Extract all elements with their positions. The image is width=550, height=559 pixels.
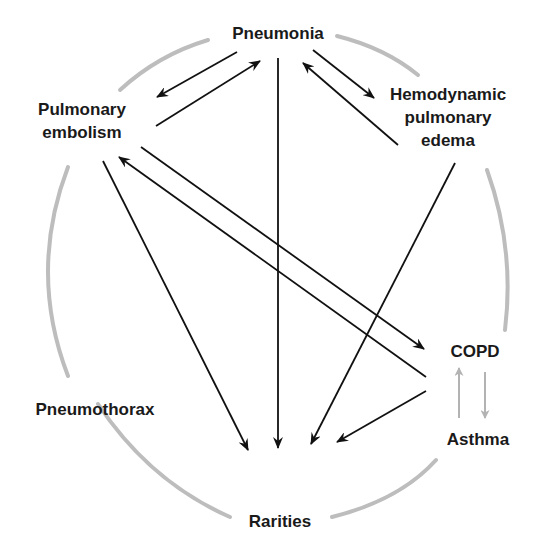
- circle-arc-right: [487, 170, 508, 330]
- node-pneumonia-label: Pneumonia: [212, 22, 344, 45]
- node-hemodynamic-line-3: edema: [380, 129, 516, 152]
- arrow-pneumonia-to-pulmonary-embolism: [157, 52, 237, 97]
- node-asthma: Asthma: [435, 428, 521, 451]
- node-copd-label: COPD: [440, 340, 510, 363]
- arrow-pneumonia-to-hemodynamic-edema: [313, 50, 374, 98]
- node-hemodynamic-line-2: pulmonary: [380, 106, 516, 129]
- differential-diagnosis-diagram: Pneumonia Pulmonary embolism Hemodynamic…: [0, 0, 550, 559]
- arrow-hemodynamic-edema-to-rarities: [311, 163, 455, 444]
- arrow-pulmonary-embolism-to-copd: [141, 147, 424, 349]
- node-pulmonary-embolism-line-1: Pulmonary: [20, 98, 144, 121]
- copd-asthma-arrows: [459, 368, 485, 418]
- node-pneumonia: Pneumonia: [212, 22, 344, 45]
- arrow-asthma-to-rarities: [337, 391, 426, 442]
- node-copd: COPD: [440, 340, 510, 363]
- node-rarities: Rarities: [230, 510, 330, 533]
- node-hemodynamic-pulmonary-edema: Hemodynamic pulmonary edema: [380, 83, 516, 152]
- node-pulmonary-embolism: Pulmonary embolism: [20, 98, 144, 144]
- circle-arc-top-right: [337, 36, 418, 75]
- node-asthma-label: Asthma: [435, 428, 521, 451]
- circle-arc-bottom-right: [332, 460, 436, 517]
- circle-arc-left: [48, 167, 68, 376]
- node-hemodynamic-line-1: Hemodynamic: [380, 83, 516, 106]
- node-rarities-label: Rarities: [230, 510, 330, 533]
- arrow-asthma-to-pulmonary-embolism: [119, 157, 426, 377]
- node-pneumothorax: Pneumothorax: [20, 398, 170, 421]
- node-pneumothorax-label: Pneumothorax: [20, 398, 170, 421]
- node-pulmonary-embolism-line-2: embolism: [20, 121, 144, 144]
- arrow-pulmonary-embolism-to-pneumonia: [156, 61, 260, 126]
- circle-arc-top-left: [120, 40, 208, 90]
